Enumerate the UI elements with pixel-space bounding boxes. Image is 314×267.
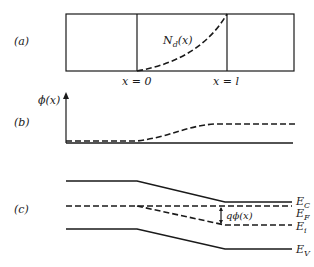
potential-curve <box>66 124 297 141</box>
panel-b: (b) ϕ(x) <box>14 92 297 143</box>
tick-x0-label: x = 0 <box>122 75 151 88</box>
ei-label: Ei <box>295 220 307 235</box>
tick-xl-label: x = l <box>213 75 239 88</box>
band-diagram: (a) Nd(x) x = 0 x = l (b) ϕ(x) (c) qϕ(x)… <box>0 0 314 267</box>
ev-label: EV <box>295 243 311 258</box>
intrinsic-level <box>137 206 292 225</box>
arrow-up-icon <box>219 207 223 211</box>
y-axis-label: ϕ(x) <box>38 94 60 107</box>
panel-a-label: (a) <box>14 35 29 48</box>
panel-c-label: (c) <box>14 203 29 216</box>
potential-label: qϕ(x) <box>226 210 253 221</box>
conduction-band-edge <box>66 181 292 202</box>
panel-b-label: (b) <box>14 116 30 129</box>
y-axis-arrow-icon <box>63 92 69 99</box>
panel-a: (a) Nd(x) x = 0 x = l <box>14 14 294 88</box>
panel-c: (c) qϕ(x) EC EF Ei EV <box>14 181 311 258</box>
doping-label: Nd(x) <box>162 34 193 49</box>
valence-band-edge <box>66 229 292 249</box>
